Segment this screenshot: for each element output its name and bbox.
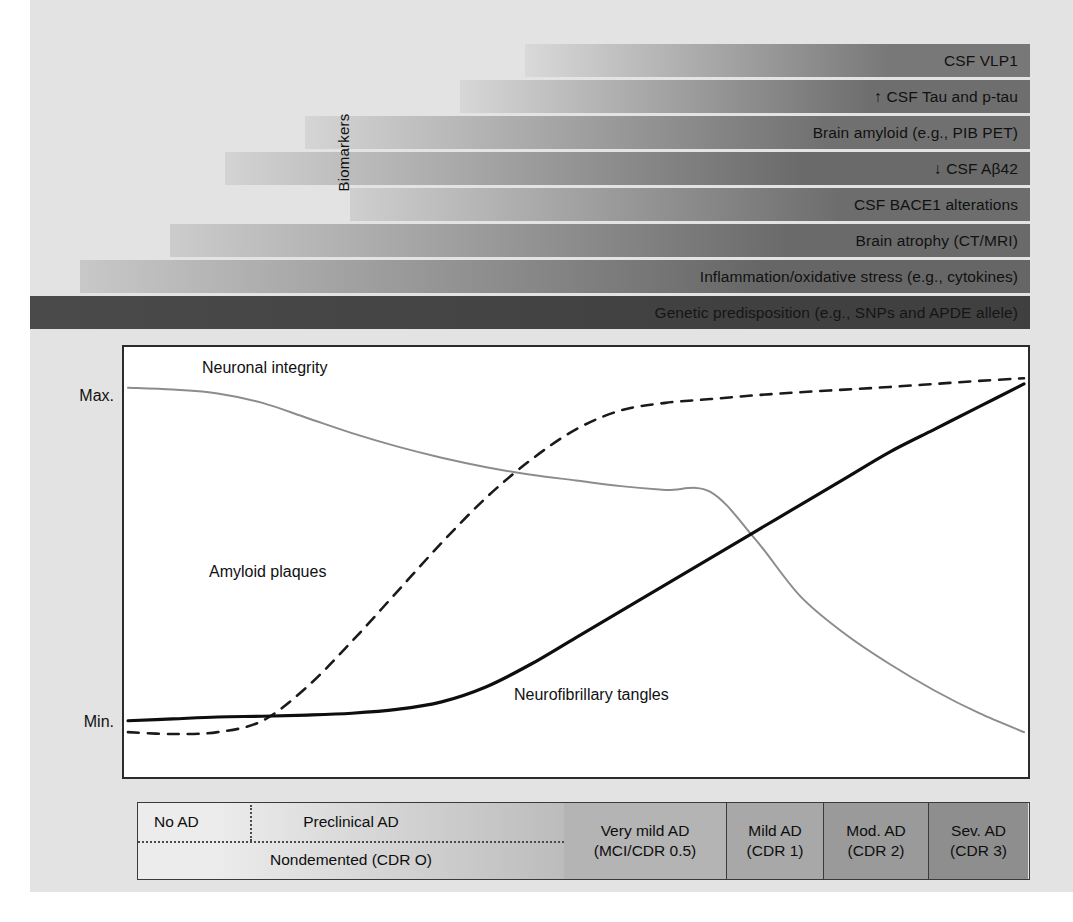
curve-label-amyloid-plaques: Amyloid plaques: [209, 563, 326, 581]
biomarker-row: Brain amyloid (e.g., PIB PET): [30, 116, 1030, 149]
chart-y-axis: Max. Min.: [30, 345, 114, 779]
biomarker-label: ↑ CSF Tau and p-tau: [874, 88, 1018, 106]
biomarker-row: ↓ CSF Aβ42: [30, 152, 1030, 185]
biomarker-label: CSF VLP1: [944, 52, 1018, 70]
stage-label-primary: Sev. AD: [951, 821, 1006, 841]
biomarkers-axis-label: Biomarkers: [335, 83, 352, 223]
stage-label-secondary: (CDR 2): [848, 841, 905, 861]
curve-neurofibrillary-tangles: [128, 384, 1024, 721]
biomarker-row: Inflammation/oxidative stress (e.g., cyt…: [30, 260, 1030, 293]
biomarker-label: Inflammation/oxidative stress (e.g., cyt…: [700, 268, 1018, 286]
curve-neuronal-integrity: [128, 388, 1024, 732]
y-axis-label-min: Min.: [84, 713, 114, 731]
stage-label-preclinical-ad: Preclinical AD: [138, 813, 564, 831]
stage-left-bottom-row: Nondemented (CDR O): [138, 841, 564, 879]
stage-segment: Mod. AD(CDR 2): [823, 803, 928, 879]
stage-label-secondary: (CDR 3): [950, 841, 1007, 861]
curve-amyloid-plaques: [128, 378, 1024, 734]
biomarker-row: Genetic predisposition (e.g., SNPs and A…: [30, 296, 1030, 329]
biomarker-label: Genetic predisposition (e.g., SNPs and A…: [654, 304, 1018, 322]
stage-segment: Very mild AD(MCI/CDR 0.5): [564, 803, 726, 879]
curve-label-neurofibrillary-tangles: Neurofibrillary tangles: [514, 686, 669, 704]
stage-label-secondary: (CDR 1): [747, 841, 804, 861]
stage-label-secondary: (MCI/CDR 0.5): [594, 841, 696, 861]
stage-vertical-divider: [250, 805, 252, 841]
biomarker-row: CSF VLP1: [30, 44, 1030, 77]
y-axis-label-max: Max.: [79, 387, 114, 405]
biomarker-row: CSF BACE1 alterations: [30, 188, 1030, 221]
disease-stage-bar: No AD Preclinical AD Nondemented (CDR O)…: [137, 802, 1030, 880]
biomarker-label: ↓ CSF Aβ42: [934, 160, 1018, 178]
biomarker-row: Brain atrophy (CT/MRI): [30, 224, 1030, 257]
stage-label-nondemented: Nondemented (CDR O): [270, 851, 432, 869]
biomarker-label: CSF BACE1 alterations: [854, 196, 1018, 214]
stage-segment-nondemented: No AD Preclinical AD Nondemented (CDR O): [138, 803, 564, 879]
chart-curves-svg: [124, 347, 1028, 777]
stage-segment: Mild AD(CDR 1): [726, 803, 823, 879]
progression-chart: Neuronal integrity Amyloid plaques Neuro…: [122, 345, 1030, 779]
biomarker-label: Brain amyloid (e.g., PIB PET): [813, 124, 1018, 142]
biomarker-row: ↑ CSF Tau and p-tau: [30, 80, 1030, 113]
biomarker-label: Brain atrophy (CT/MRI): [856, 232, 1018, 250]
stage-segment: Sev. AD(CDR 3): [928, 803, 1028, 879]
stage-label-primary: Mod. AD: [846, 821, 905, 841]
stage-left-top-row: No AD Preclinical AD: [138, 803, 564, 841]
figure-panel: CSF VLP1↑ CSF Tau and p-tauBrain amyloid…: [30, 0, 1073, 892]
stage-label-primary: Mild AD: [748, 821, 801, 841]
curve-label-neuronal-integrity: Neuronal integrity: [202, 359, 327, 377]
stage-label-primary: Very mild AD: [601, 821, 690, 841]
biomarkers-block: CSF VLP1↑ CSF Tau and p-tauBrain amyloid…: [30, 44, 1073, 336]
